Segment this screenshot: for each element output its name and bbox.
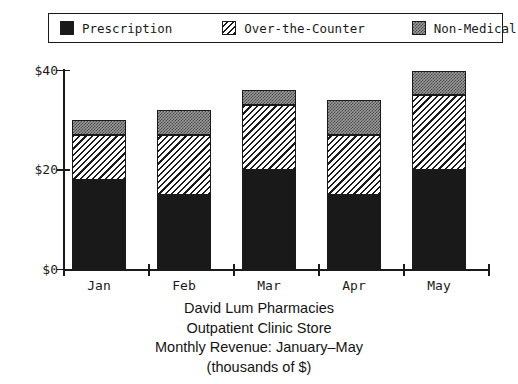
x-axis-tick bbox=[488, 264, 490, 276]
bar-segment-prescription bbox=[72, 180, 126, 270]
bar-segment-non-medical bbox=[242, 90, 296, 105]
bar-segment-over-the-counter bbox=[327, 135, 381, 195]
bar-segment-over-the-counter bbox=[157, 135, 211, 195]
bar-segment-non-medical bbox=[327, 100, 381, 135]
bar-segment-prescription bbox=[412, 170, 466, 270]
x-axis-tick bbox=[63, 264, 65, 276]
y-axis-tick-label: $40 bbox=[35, 63, 58, 78]
y-axis-tick-label: $20 bbox=[35, 162, 58, 177]
y-axis-tick bbox=[57, 169, 70, 171]
x-axis-tick bbox=[318, 264, 320, 276]
bar-segment-prescription bbox=[157, 195, 211, 270]
chart-caption: David Lum Pharmacies Outpatient Clinic S… bbox=[0, 299, 518, 377]
bar-segment-over-the-counter bbox=[72, 135, 126, 180]
bar-segment-non-medical bbox=[157, 110, 211, 135]
bar-segment-non-medical bbox=[412, 71, 466, 96]
x-axis-tick bbox=[403, 264, 405, 276]
bar-segment-prescription bbox=[327, 195, 381, 270]
caption-line-3: Monthly Revenue: January–May bbox=[0, 338, 518, 358]
caption-line-1: David Lum Pharmacies bbox=[0, 299, 518, 319]
bar-segment-over-the-counter bbox=[242, 105, 296, 170]
x-axis-tick bbox=[148, 264, 150, 276]
caption-line-4: (thousands of $) bbox=[0, 358, 518, 378]
y-axis-tick bbox=[57, 70, 70, 72]
bar-segment-over-the-counter bbox=[412, 95, 466, 170]
bar-segment-prescription bbox=[242, 170, 296, 270]
caption-line-2: Outpatient Clinic Store bbox=[0, 319, 518, 339]
x-axis-tick bbox=[233, 264, 235, 276]
y-axis-tick-label: $0 bbox=[42, 262, 58, 277]
bar-segment-non-medical bbox=[72, 120, 126, 135]
